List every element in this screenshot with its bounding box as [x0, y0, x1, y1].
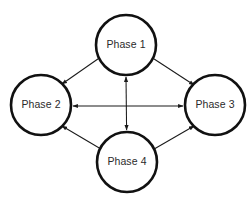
node-layer: Phase 1 Phase 2 Phase 3 Phase 4: [11, 15, 245, 192]
diagram-canvas: Phase 1 Phase 2 Phase 3 Phase 4: [0, 0, 252, 202]
node-phase1[interactable]: Phase 1: [96, 15, 156, 75]
node-phase1-label: Phase 1: [106, 38, 145, 50]
node-phase3-label: Phase 3: [195, 98, 234, 110]
node-phase2[interactable]: Phase 2: [11, 75, 71, 135]
edge-phase1-phase4: [126, 77, 127, 130]
phase-cycle-diagram: Phase 1 Phase 2 Phase 3 Phase 4: [0, 0, 252, 202]
node-phase2-label: Phase 2: [21, 98, 60, 110]
edge-phase4-phase3: [149, 126, 194, 152]
node-phase4[interactable]: Phase 4: [97, 132, 157, 192]
edge-phase1-phase3: [148, 55, 194, 85]
node-phase3[interactable]: Phase 3: [185, 75, 245, 135]
node-phase4-label: Phase 4: [107, 155, 146, 167]
